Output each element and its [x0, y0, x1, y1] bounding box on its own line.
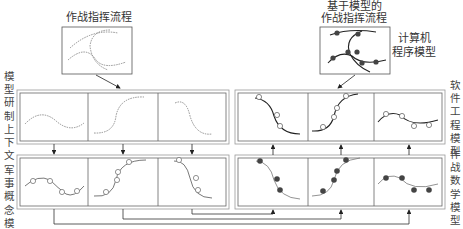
right-lower-row [235, 155, 445, 209]
right-top-arrow [338, 75, 355, 88]
left-top-process-box [62, 27, 132, 74]
right-top-model-box [320, 27, 390, 74]
right-top-title-line2: 作战指挥流程 [321, 13, 387, 25]
left-top-arrow [96, 75, 120, 88]
left-upper-vertical-label: 模型研制上下文 [3, 70, 15, 162]
left-lower-vertical-label: 军事概念模型 [3, 164, 15, 229]
computer-program-label-line1: 计算机 [398, 33, 431, 45]
bottom-connectors [54, 209, 409, 224]
left-top-title: 作战指挥流程 [66, 12, 132, 24]
diagram-canvas [0, 0, 463, 229]
right-upper-vertical-label: 软件工程模型 [449, 79, 461, 158]
computer-program-label-line2: 程序模型 [392, 47, 436, 59]
left-lower-row [17, 155, 229, 209]
right-upper-row [235, 90, 445, 144]
left-upper-row [17, 90, 229, 144]
right-lower-vertical-label: 作战数学模型 [449, 148, 461, 227]
